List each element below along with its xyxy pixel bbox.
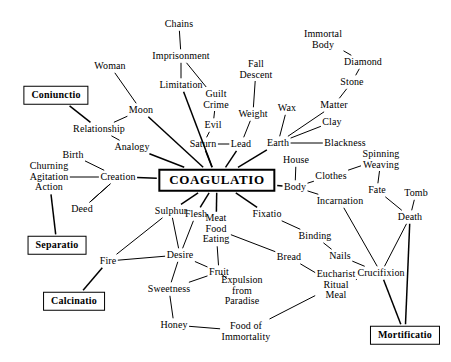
concept-node-flesh: Flesh xyxy=(185,209,207,220)
concept-node-immortalbody: Immortal Body xyxy=(304,29,342,50)
edge-house-body xyxy=(295,167,296,181)
concept-node-fate: Fate xyxy=(368,185,386,196)
edge-clothes-spinning xyxy=(348,166,361,170)
concept-node-binding: Binding xyxy=(299,231,332,242)
concept-node-matter: Matter xyxy=(320,100,347,111)
edge-relationship-analogy xyxy=(111,136,119,141)
concept-node-foodimm: Food of Immortality xyxy=(222,321,271,342)
concept-node-expulsion: Expulsion from Paradise xyxy=(221,275,262,307)
edge-wax-earth xyxy=(280,115,286,137)
concept-node-analogy: Analogy xyxy=(114,142,149,153)
edge-nails-crucifixion xyxy=(352,261,364,266)
concept-node-wax: Wax xyxy=(278,103,296,114)
edge-deed-creation xyxy=(90,184,111,203)
concept-map-canvas: COAGULATIOConiunctioSeparatioCalcinatioM… xyxy=(0,0,451,362)
edge-birth-creation xyxy=(85,161,104,170)
edge-spinning-fate xyxy=(378,171,380,183)
edge-desire-sweetness xyxy=(171,262,178,283)
concept-node-weight: Weight xyxy=(238,109,267,120)
concept-node-blackness: Blackness xyxy=(324,138,365,149)
edge-binding-nails xyxy=(323,243,331,250)
concept-node-body: Body xyxy=(284,182,306,193)
edge-fruit-meat xyxy=(217,246,218,265)
edge-body-coagulatio xyxy=(277,185,282,186)
concept-node-nails: Nails xyxy=(329,251,351,262)
edge-guiltcrime-evil xyxy=(214,111,215,118)
concept-node-lead: Lead xyxy=(231,139,251,150)
concept-node-imprisonment: Imprisonment xyxy=(152,51,209,62)
concept-node-stone: Stone xyxy=(340,77,363,88)
concept-node-clothes: Clothes xyxy=(315,171,346,182)
concept-node-honey: Honey xyxy=(160,320,187,331)
edge-fixatio-binding xyxy=(282,221,301,230)
center-node-coagulatio[interactable]: COAGULATIO xyxy=(158,169,275,192)
edge-woman-moon xyxy=(115,73,136,104)
concept-node-moon: Moon xyxy=(129,105,153,116)
concept-node-guiltcrime: Guilt Crime xyxy=(203,89,229,110)
concept-node-bread: Bread xyxy=(277,252,301,263)
concept-node-woman: Woman xyxy=(94,61,125,72)
edge-sulphur-desire xyxy=(172,218,178,249)
edge-sulphur-fire xyxy=(117,218,163,255)
edge-desire-fruit xyxy=(195,262,208,268)
edge-honey-foodimm xyxy=(189,326,220,329)
edge-diamond-stone xyxy=(356,69,360,76)
concept-node-fire: Fire xyxy=(100,256,117,267)
edge-fire-calcinatio xyxy=(83,268,102,291)
concept-node-desire: Desire xyxy=(167,250,194,261)
edge-crucifixion-mortificatio xyxy=(384,280,401,325)
edge-sulphur-coagulatio xyxy=(181,193,198,205)
concept-node-chains: Chains xyxy=(165,19,193,30)
concept-node-creation: Creation xyxy=(100,172,135,183)
edge-flesh-desire xyxy=(183,221,194,249)
edge-creation-coagulatio xyxy=(137,178,157,179)
edge-lead-coagulatio xyxy=(226,151,237,168)
operation-node-calcinatio[interactable]: Calcinatio xyxy=(43,292,105,311)
concept-node-crucifixion: Crucifixion xyxy=(357,268,404,279)
concept-node-churning: Churning Agitation Action xyxy=(30,161,69,193)
edge-clay-earth xyxy=(291,126,321,138)
concept-node-spinning: Spinning Weaving xyxy=(363,149,400,170)
edge-fixatio-coagulatio xyxy=(236,193,257,208)
concept-node-falldescent: Fall Descent xyxy=(240,59,273,80)
edge-fruit-sweetness xyxy=(189,276,208,282)
edge-fate-death xyxy=(385,197,402,211)
edge-churning-separatio xyxy=(51,194,56,234)
edge-falldescent-weight xyxy=(253,81,255,107)
edge-analogy-coagulatio xyxy=(149,154,184,168)
edge-weight-lead xyxy=(244,121,251,138)
concept-node-clay: Clay xyxy=(322,117,341,128)
edge-earth-coagulatio xyxy=(238,150,267,168)
operation-node-separatio[interactable]: Separatio xyxy=(28,236,87,255)
edge-meat-bread xyxy=(231,235,275,252)
edge-sweetness-honey xyxy=(170,296,173,319)
edge-death-crucifixion xyxy=(385,224,407,266)
edge-moon-relationship xyxy=(114,116,128,122)
edge-coniunctio-relationship xyxy=(70,106,91,123)
edge-fire-desire xyxy=(118,256,165,260)
concept-node-house: House xyxy=(283,155,309,166)
edge-tomb-death xyxy=(412,200,415,211)
operation-node-mortificatio[interactable]: Mortificatio xyxy=(370,326,440,345)
concept-node-sweetness: Sweetness xyxy=(148,284,191,295)
concept-node-limitation: Limitation xyxy=(159,80,202,91)
concept-node-death: Death xyxy=(398,212,422,223)
concept-node-deed: Deed xyxy=(71,204,93,215)
edge-foodimm-eucharist xyxy=(270,296,316,319)
edge-flesh-coagulatio xyxy=(200,193,209,208)
operation-node-coniunctio[interactable]: Coniunctio xyxy=(23,86,88,105)
edge-stone-matter xyxy=(339,89,346,99)
concept-node-tomb: Tomb xyxy=(404,188,428,199)
concept-node-relationship: Relationship xyxy=(73,124,125,135)
concept-node-sulphur: Sulphur xyxy=(155,206,187,217)
edge-saturn-coagulatio xyxy=(206,151,212,168)
concept-node-earth: Earth xyxy=(267,138,289,149)
edge-chains-imprisonment xyxy=(179,31,180,50)
concept-node-fixatio: Fixatio xyxy=(252,209,281,220)
concept-node-diamond: Diamond xyxy=(344,57,382,68)
edge-body-clothes xyxy=(308,181,314,183)
edge-immortalbody-diamond xyxy=(344,51,352,56)
edge-bread-eucharist xyxy=(300,264,315,273)
concept-node-birth: Birth xyxy=(62,150,83,161)
edge-evil-saturn xyxy=(207,132,210,138)
